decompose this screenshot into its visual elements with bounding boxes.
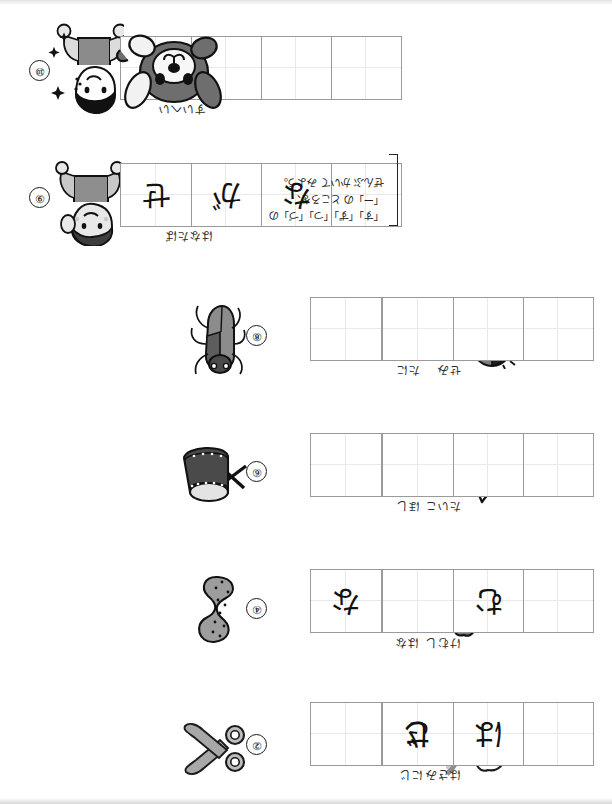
item-label-4: けむし <box>425 636 461 652</box>
grid-cell[interactable]: な <box>311 570 381 632</box>
item-label-2: はさみ <box>425 768 461 784</box>
grid-cell[interactable] <box>311 298 381 360</box>
item-label-1: にじ <box>399 768 423 784</box>
caterpillar-icon <box>194 574 244 646</box>
grid-cell[interactable] <box>523 570 593 632</box>
drum-icon <box>178 438 250 510</box>
grid-cell[interactable] <box>261 37 331 99</box>
sailor-boy-icon <box>46 20 124 114</box>
scissors-icon <box>182 716 248 778</box>
item-label-7: たに <box>396 363 420 379</box>
grid-cell[interactable] <box>523 434 593 496</box>
grid-cell[interactable] <box>331 37 401 99</box>
grid-cell[interactable]: せ <box>121 164 191 226</box>
item-number-2: ② <box>246 734 267 755</box>
grid-cell[interactable] <box>383 434 453 496</box>
item-number-8: ⑧ <box>246 325 267 346</box>
grid-cell[interactable] <box>523 298 593 360</box>
grid-cell[interactable] <box>383 570 453 632</box>
page-edge-bottom <box>0 0 612 5</box>
item-label-8: せみ <box>437 363 461 379</box>
item-label-9: はなたば <box>165 229 213 245</box>
item-number-4: ④ <box>246 598 267 619</box>
item-label-6: たいこ <box>425 499 461 515</box>
instruction-bracket <box>389 154 398 226</box>
grid-cell[interactable] <box>383 298 453 360</box>
page-edge-top <box>0 798 612 804</box>
answer-grid-4[interactable]: む <box>382 569 594 633</box>
handwritten-answer: さ <box>403 719 433 749</box>
answer-grid-8[interactable] <box>382 297 594 361</box>
grid-cell[interactable]: さ <box>383 703 453 765</box>
worksheet-page: ① にじ じ ② <box>0 0 612 804</box>
grid-cell[interactable] <box>311 703 381 765</box>
cicada-icon <box>184 302 246 376</box>
dog-icon <box>114 20 224 120</box>
grid-cell[interactable] <box>453 298 523 360</box>
answer-grid-2[interactable]: は さ <box>382 702 594 766</box>
handwritten-answer: な <box>331 586 361 616</box>
handwritten-answer: む <box>474 586 504 616</box>
girl-icon <box>48 156 122 246</box>
handwritten-answer: せ <box>141 180 171 210</box>
grid-cell[interactable]: む <box>453 570 523 632</box>
grid-cell[interactable]: は <box>453 703 523 765</box>
grid-cell[interactable] <box>523 703 593 765</box>
grid-cell[interactable] <box>453 434 523 496</box>
item-number-9: ⑨ <box>29 187 50 208</box>
handwritten-answer: が <box>212 180 242 210</box>
item-label-5: ほし <box>396 499 420 515</box>
answer-grid-6[interactable] <box>382 433 594 497</box>
handwritten-answer: な <box>282 180 312 210</box>
grid-cell[interactable] <box>311 434 381 496</box>
item-label-3: はな <box>395 636 419 652</box>
handwritten-answer: は <box>474 719 504 749</box>
